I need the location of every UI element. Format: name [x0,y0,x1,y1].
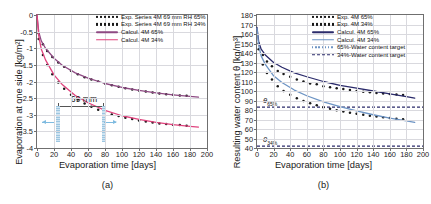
y-tick-label: 100 [241,87,253,96]
y-tick [254,110,257,111]
x-tick-label: 180 [400,150,412,159]
data-point [282,73,285,76]
y-tick-label: -2.5 [20,94,33,103]
legend-key-dots-icon [312,21,334,28]
data-point [335,87,338,90]
data-point [63,88,65,91]
legend-key-solid-icon [312,36,334,43]
y-tick-label: -3 [26,110,33,119]
y-tick-label: 130 [241,58,253,67]
gridline-horizontal [37,82,207,83]
theta-65-annotation: θ65% [263,96,277,107]
gridline-horizontal [257,101,423,102]
x-tick-label: 0 [35,150,39,159]
y-tick [254,44,257,45]
y-tick-label: 90 [245,96,253,105]
legend-item: 34%-Water content target [312,51,405,59]
y-tick [34,32,37,33]
gridline-horizontal [257,82,423,83]
gridline-horizontal [37,115,207,116]
y-tick [34,115,37,116]
y-tick-label: 60 [245,125,253,134]
data-point [309,102,312,105]
x-tick-label: 100 [334,150,346,159]
y-tick-label: 140 [241,49,253,58]
legend-key-solid-icon [96,28,118,35]
panel-b: Resulting water content θ [kg/m³] θ65% θ… [216,0,431,204]
legend-label: Exp. 4M 65% [337,14,373,20]
legend-key-solid-icon [312,28,334,35]
figure-container: Evaporation at one side [kg/m²] 69 mm 02… [0,0,431,204]
legend-key-dashed-icon [312,51,334,58]
evaporation-arrow-right-icon [104,122,116,123]
panel-b-x-axis-label: Evaporation time [days] [216,160,431,170]
data-point [309,82,312,85]
legend-key-solid-icon [96,36,118,43]
specimen-dimension-label: 69 mm [48,94,120,104]
x-tick-label: 120 [133,150,145,159]
y-tick [34,131,37,132]
data-point [296,78,299,81]
legend-item: Calcul. 4M 65% [96,28,206,36]
x-tick-label: 60 [303,150,311,159]
y-tick [254,63,257,64]
gridline-horizontal [257,129,423,130]
y-tick-label: 70 [245,115,253,124]
y-tick [254,82,257,83]
data-point [296,97,299,100]
gridline-horizontal [257,110,423,111]
x-tick-label: 0 [255,150,259,159]
y-tick-label: 180 [241,11,253,20]
x-tick-label: 160 [384,150,396,159]
legend-label: 65%-Water content target [337,44,405,50]
gridline-horizontal [257,72,423,73]
data-point [277,85,280,88]
legend-item: Exp. Series 4M 69 mm RH 65% [96,13,206,21]
y-tick-label: 120 [241,68,253,77]
y-tick-label: 150 [241,39,253,48]
gridline-horizontal [37,98,207,99]
gridline-horizontal [257,91,423,92]
legend-label: Exp. 4M 34% [337,21,373,27]
panel-b-tag: (b) [216,180,431,190]
data-point [329,86,332,89]
panel-a-tag: (a) [0,180,215,190]
x-tick-label: 140 [367,150,379,159]
gridline-horizontal [37,65,207,66]
y-tick-label: 0 [29,11,33,20]
gridline-horizontal [257,63,423,64]
y-tick-label: 50 [245,134,253,143]
y-tick [34,98,37,99]
x-tick-label: 200 [417,150,429,159]
legend-item: 65%-Water content target [312,43,405,51]
legend-label: Calcul. 4M 34% [121,37,163,43]
x-tick-label: 120 [350,150,362,159]
data-point [342,88,345,91]
y-tick [34,148,37,149]
legend-label: Calcul. 4M 65% [337,29,379,35]
y-tick [254,91,257,92]
x-tick-label: 40 [286,150,294,159]
y-tick [254,34,257,35]
legend-label: Exp. Series 4M 69 mm RH 34% [121,21,206,27]
legend-item: Exp. 4M 34% [312,21,405,29]
legend-item: Calcul. 4M 34% [312,36,405,44]
legend-item: Calcul. 4M 34% [96,36,206,44]
legend-item: Exp. 4M 65% [312,13,405,21]
y-tick-label: -1 [26,44,33,53]
legend-item: Exp. Series 4M 69 mm RH 34% [96,21,206,29]
y-tick-label: 40 [245,144,253,153]
specimen-inset: 69 mm [48,96,120,146]
gridline-horizontal [37,131,207,132]
data-point [316,104,319,107]
legend-label: Calcul. 4M 34% [337,37,379,43]
legend-label: 34%-Water content target [337,52,405,58]
y-tick [254,53,257,54]
gridline-horizontal [257,139,423,140]
y-tick-label: -2 [26,77,33,86]
legend-key-dots-icon [312,13,334,20]
theta-34-annotation: θ34% [263,135,277,146]
x-tick-label: 100 [116,150,128,159]
specimen-wall-left [56,106,60,142]
x-tick-label: 180 [184,150,196,159]
